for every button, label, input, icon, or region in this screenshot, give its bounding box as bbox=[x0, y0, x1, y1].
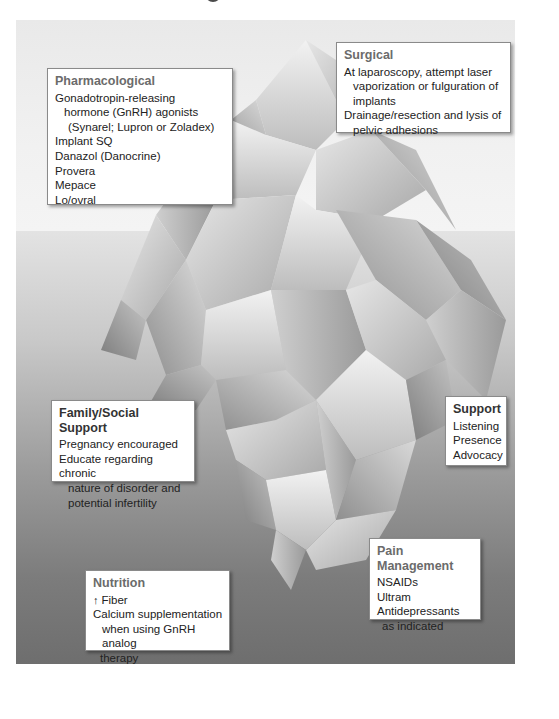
pharmacological-item: Implant SQ bbox=[55, 134, 226, 149]
family-social-support-box: Family/Social Support Pregnancy encourag… bbox=[51, 400, 195, 482]
family-social-support-title: Family/Social Support bbox=[59, 406, 188, 435]
pain-management-item: Ultram bbox=[377, 590, 474, 605]
title-fragment bbox=[205, 0, 221, 2]
nutrition-box: Nutrition ↑Fiber Calcium supplementation… bbox=[85, 570, 230, 651]
nutrition-title: Nutrition bbox=[93, 576, 223, 591]
nutrition-item: Calcium supplementation when using GnRH … bbox=[93, 607, 223, 665]
pharmacological-item: Lo/ovral bbox=[55, 193, 226, 208]
support-title: Support bbox=[453, 402, 500, 417]
pain-management-item: Antidepressants as indicated bbox=[377, 604, 474, 633]
family-social-support-item: Pregnancy encouraged bbox=[59, 437, 188, 452]
family-social-support-item: Educate regarding chronic nature of diso… bbox=[59, 452, 188, 510]
surgical-title: Surgical bbox=[344, 48, 504, 63]
pharmacological-title: Pharmacological bbox=[55, 74, 226, 89]
pharmacological-item: Provera bbox=[55, 164, 226, 179]
surgical-box: Surgical At laparoscopy, attempt laser v… bbox=[336, 42, 511, 133]
pain-management-box: Pain Management NSAIDs Ultram Antidepres… bbox=[369, 538, 481, 620]
pharmacological-item: Danazol (Danocrine) bbox=[55, 149, 226, 164]
pharmacological-box: Pharmacological Gonadotropin-releasing h… bbox=[47, 68, 233, 205]
pharmacological-item: Gonadotropin-releasing hormone (GnRH) ag… bbox=[55, 91, 226, 135]
support-box: Support Listening Presence Advocacy bbox=[445, 396, 507, 466]
support-item: Listening bbox=[453, 419, 500, 434]
surgical-item: At laparoscopy, attempt laser vaporizati… bbox=[344, 65, 504, 109]
up-arrow-icon: ↑ bbox=[93, 594, 99, 606]
pharmacological-item: Mepace bbox=[55, 178, 226, 193]
nutrition-item: ↑Fiber bbox=[93, 593, 223, 608]
support-item: Advocacy bbox=[453, 448, 500, 463]
pain-management-title: Pain Management bbox=[377, 544, 474, 573]
support-item: Presence bbox=[453, 433, 500, 448]
pain-management-item: NSAIDs bbox=[377, 575, 474, 590]
surgical-item: Drainage/resection and lysis of pelvic a… bbox=[344, 108, 504, 137]
